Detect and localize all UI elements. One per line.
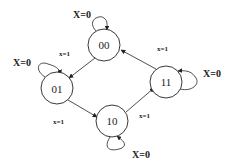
label-self-00: X=0 — [73, 9, 91, 20]
state-10-label: 10 — [107, 115, 119, 127]
label-edge-11-00: x=1 — [157, 45, 168, 53]
state-00: 00 — [88, 29, 120, 61]
label-self-10: X=0 — [132, 149, 150, 160]
self-loop-10 — [107, 136, 124, 150]
label-self-01: X=0 — [13, 57, 31, 68]
state-01-label: 01 — [52, 83, 63, 95]
edge-00-to-01 — [69, 58, 95, 78]
edge-10-to-11 — [126, 88, 154, 112]
state-01: 01 — [41, 72, 73, 104]
state-10: 10 — [96, 105, 128, 137]
label-edge-01-10: x=1 — [53, 118, 64, 126]
label-edge-00-01: x=1 — [59, 50, 70, 58]
state-11-label: 11 — [161, 76, 172, 88]
state-00-label: 00 — [99, 39, 111, 51]
state-diagram: 00 01 10 11 X=0 x=1 X=0 x=1 X=0 x=1 X=0 … — [0, 0, 233, 166]
state-11: 11 — [150, 66, 182, 98]
label-self-11: X=0 — [203, 68, 221, 79]
edge-11-to-00 — [121, 50, 156, 69]
edge-01-to-10 — [68, 100, 97, 117]
label-edge-10-11: x=1 — [139, 112, 150, 120]
